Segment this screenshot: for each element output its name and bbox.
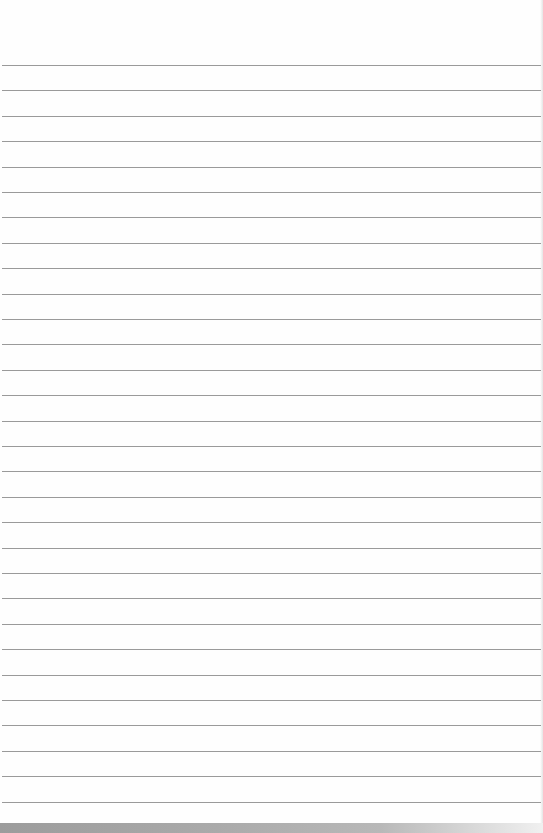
ruled-line xyxy=(2,675,541,676)
ruled-line xyxy=(2,725,541,726)
ruled-line xyxy=(2,395,541,396)
ruled-line xyxy=(2,471,541,472)
ruled-line xyxy=(2,243,541,244)
ruled-line xyxy=(2,294,541,295)
ruled-line xyxy=(2,751,541,752)
ruled-line xyxy=(2,421,541,422)
lined-paper xyxy=(0,0,543,823)
ruled-line xyxy=(2,268,541,269)
ruled-line xyxy=(2,776,541,777)
ruled-line xyxy=(2,319,541,320)
ruled-line xyxy=(2,548,541,549)
ruled-line xyxy=(2,116,541,117)
ruled-line xyxy=(2,573,541,574)
ruled-line xyxy=(2,649,541,650)
bottom-surface-strip xyxy=(0,823,543,833)
ruled-line xyxy=(2,141,541,142)
ruled-line xyxy=(2,167,541,168)
ruled-line xyxy=(2,192,541,193)
ruled-line xyxy=(2,522,541,523)
ruled-line xyxy=(2,446,541,447)
ruled-line xyxy=(2,370,541,371)
ruled-line xyxy=(2,217,541,218)
ruled-line xyxy=(2,802,541,803)
ruled-line xyxy=(2,497,541,498)
ruled-line xyxy=(2,700,541,701)
ruled-line xyxy=(2,65,541,66)
ruled-line xyxy=(2,624,541,625)
ruled-line xyxy=(2,344,541,345)
ruled-line xyxy=(2,90,541,91)
ruled-line xyxy=(2,598,541,599)
